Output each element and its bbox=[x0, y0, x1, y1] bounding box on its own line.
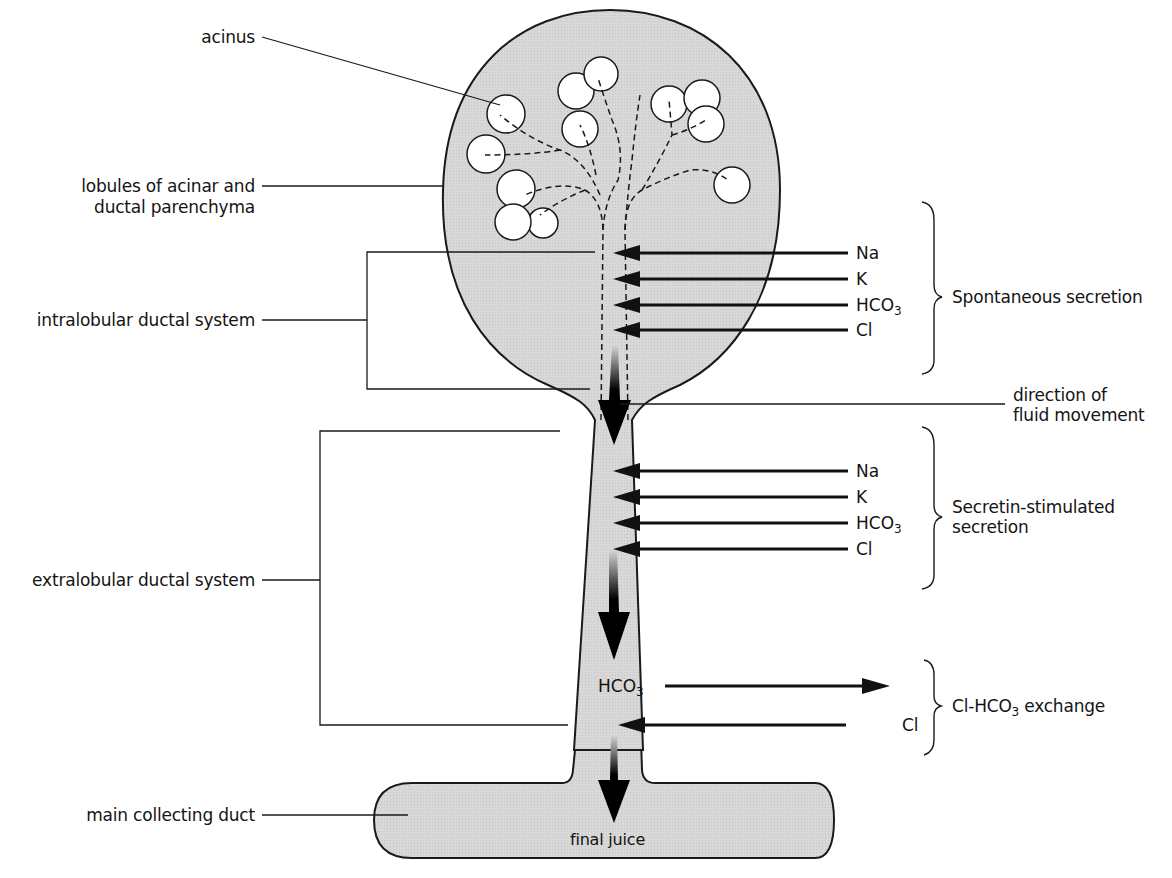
label-spontaneous-secretion: Spontaneous secretion bbox=[952, 287, 1143, 307]
label-secretin-line1: Secretin-stimulated bbox=[952, 497, 1115, 517]
ion-cl-secretin: Cl bbox=[856, 539, 873, 559]
label-direction-line1: direction of bbox=[1013, 385, 1107, 405]
label-intralobular: intralobular ductal system bbox=[37, 310, 255, 330]
exchange-arrows bbox=[618, 678, 890, 733]
ion-na-spontaneous: Na bbox=[856, 243, 879, 263]
braces bbox=[922, 202, 942, 755]
diagram-canvas bbox=[0, 0, 1172, 878]
label-final-juice: final juice bbox=[570, 830, 645, 850]
ion-hco3-spontaneous: HCO3 bbox=[856, 295, 902, 321]
ion-cl-spontaneous: Cl bbox=[856, 320, 873, 340]
label-lobules-line1: lobules of acinar and bbox=[81, 176, 255, 196]
label-lobules-line2: ductal parenchyma bbox=[94, 197, 255, 217]
label-secretin-line2: secretion bbox=[952, 517, 1029, 537]
ion-hco3-secretin: HCO3 bbox=[856, 513, 902, 539]
ion-cl-exchange-in: Cl bbox=[902, 715, 919, 735]
ion-hco3-exchange-out: HCO3 bbox=[598, 676, 644, 702]
ion-na-secretin: Na bbox=[856, 461, 879, 481]
label-extralobular: extralobular ductal system bbox=[32, 570, 255, 590]
ion-k-secretin: K bbox=[856, 487, 867, 507]
label-main-duct: main collecting duct bbox=[86, 805, 255, 825]
ion-k-spontaneous: K bbox=[856, 269, 867, 289]
brace-spontaneous bbox=[922, 202, 942, 374]
label-direction-line2: fluid movement bbox=[1013, 405, 1145, 425]
label-cl-hco3-exchange: Cl-HCO3 exchange bbox=[952, 696, 1105, 722]
secretin-ion-arrows bbox=[613, 463, 848, 557]
label-acinus: acinus bbox=[201, 27, 255, 47]
brace-secretin bbox=[922, 427, 942, 589]
brace-exchange bbox=[924, 660, 941, 755]
